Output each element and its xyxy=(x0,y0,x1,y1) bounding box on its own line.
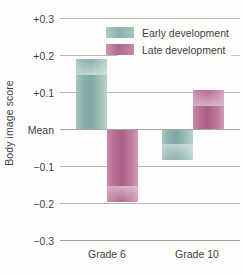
legend-swatch-early-development xyxy=(106,27,134,38)
legend-label-late-development: Late development xyxy=(142,44,225,56)
gridline-minus-0-2: −0.2 xyxy=(60,203,240,204)
gridline-mean: Mean xyxy=(60,129,240,130)
bar-sheen xyxy=(76,59,107,75)
bar-grade-10-early-development xyxy=(162,130,193,160)
bar-grade-6-late-development xyxy=(107,130,138,202)
x-tick-label-grade-10: Grade 10 xyxy=(150,248,243,260)
legend-item-early-development: Early development xyxy=(106,25,238,40)
y-tick-label-minus-0-2: −0.2 xyxy=(33,198,54,210)
legend-item-late-development: Late development xyxy=(106,42,238,57)
y-axis-title-text: Body image score xyxy=(3,80,15,166)
bar-sheen xyxy=(193,90,224,106)
legend-label-early-development: Early development xyxy=(142,27,229,39)
y-tick-label-plus-0-1: +0.1 xyxy=(33,87,54,99)
x-tick-label-grade-6: Grade 6 xyxy=(60,248,154,260)
bar-sheen xyxy=(107,186,138,202)
legend: Early development Late development xyxy=(106,25,238,59)
x-axis-line xyxy=(60,240,240,241)
legend-swatch-late-development xyxy=(106,44,134,55)
bar-sheen xyxy=(162,144,193,160)
bar-grade-6-early-development xyxy=(76,59,107,129)
y-axis-title: Body image score xyxy=(0,0,18,245)
y-tick-label-plus-0-3: +0.3 xyxy=(33,13,54,25)
y-tick-label-plus-0-2: +0.2 xyxy=(33,50,54,62)
y-tick-label-minus-0-3: −0.3 xyxy=(33,235,54,247)
gridline-minus-0-1: −0.1 xyxy=(60,166,240,167)
y-tick-label-mean: Mean xyxy=(28,124,54,136)
bar-grade-10-late-development xyxy=(193,90,224,129)
body-image-score-chart: Body image score +0.3 +0.2 +0.1 Mean −0.… xyxy=(0,0,243,275)
gridline-plus-0-3: +0.3 xyxy=(60,18,240,19)
y-tick-label-minus-0-1: −0.1 xyxy=(33,161,54,173)
